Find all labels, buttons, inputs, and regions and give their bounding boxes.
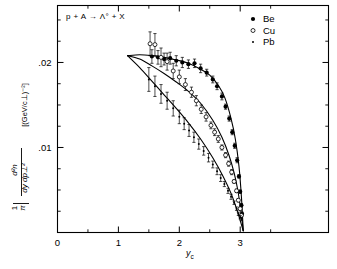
legend-label-Pb: Pb <box>263 36 275 47</box>
data-point-Pb <box>166 100 168 102</box>
x-axis-title-sub: c <box>191 253 194 260</box>
y-tick-label: .02 <box>38 57 51 68</box>
data-point-Cu <box>165 60 169 64</box>
data-point-Cu <box>199 107 203 111</box>
data-point-Pb <box>148 78 150 80</box>
y-tick-label: .01 <box>38 142 51 153</box>
legend-label-Be: Be <box>263 13 275 24</box>
data-point-Cu <box>204 115 208 119</box>
data-point-Pb <box>178 116 180 118</box>
data-point-Be <box>233 144 237 148</box>
data-point-Pb <box>237 213 239 215</box>
legend-label-Cu: Cu <box>263 25 275 36</box>
data-point-Be <box>205 71 209 75</box>
reaction-label: p + A → Λ° + X <box>66 12 125 21</box>
data-point-Be <box>220 94 224 98</box>
data-point-Cu <box>148 42 152 46</box>
data-point-Pb <box>212 163 214 165</box>
data-point-Cu <box>209 123 213 127</box>
data-point-Pb <box>223 183 225 185</box>
data-point-Cu <box>224 153 228 157</box>
y-axis-numerator: d²n <box>10 164 19 176</box>
data-point-Cu <box>183 83 187 87</box>
data-point-Pb <box>188 129 190 131</box>
data-point-Pb <box>208 157 210 159</box>
data-point-Be <box>150 54 154 58</box>
series-Pb <box>147 68 243 221</box>
data-point-Be <box>215 84 219 88</box>
x-tick-label: 1 <box>116 237 121 248</box>
data-point-Cu <box>177 75 181 79</box>
data-point-Pb <box>160 93 162 95</box>
data-point-Cu <box>159 55 163 59</box>
y-axis-label-group: [(GeV/c⊥)⁻²]1πd²ndy dp⊥² <box>10 83 29 210</box>
data-point-Pb <box>198 143 200 145</box>
data-point-Pb <box>216 170 218 172</box>
legend-marker-Pb <box>252 41 254 43</box>
data-point-Cu <box>213 130 217 134</box>
data-point-Pb <box>220 177 222 179</box>
data-point-Pb <box>230 196 232 198</box>
data-point-Be <box>199 66 203 70</box>
data-point-Be <box>235 158 239 162</box>
x-tick-label: 2 <box>177 237 182 248</box>
data-point-Cu <box>153 43 157 47</box>
y-axis-units: [(GeV/c⊥)⁻²] <box>20 83 29 127</box>
data-point-Be <box>227 116 231 120</box>
data-point-Pb <box>227 190 229 192</box>
data-point-Cu <box>220 145 224 149</box>
y-axis-prefactor-denominator: π <box>18 205 27 211</box>
data-point-Pb <box>240 218 242 220</box>
data-point-Cu <box>194 99 198 103</box>
plot-canvas: 0123.01.02BeCuPb[(GeV/c⊥)⁻²]1πd²ndy dp⊥² <box>0 0 337 269</box>
data-point-Pb <box>236 208 238 210</box>
data-point-Cu <box>230 170 234 174</box>
data-point-Be <box>192 61 196 65</box>
data-point-Pb <box>154 85 156 87</box>
data-point-Be <box>168 56 172 60</box>
data-point-Be <box>174 59 178 63</box>
data-point-Cu <box>238 207 242 211</box>
data-point-Pb <box>172 107 174 109</box>
x-axis-title: yc <box>186 248 194 260</box>
data-point-Pb <box>233 202 235 204</box>
data-point-Pb <box>183 123 185 125</box>
data-point-Cu <box>216 137 220 141</box>
data-point-Be <box>223 105 227 109</box>
data-point-Be <box>211 77 215 81</box>
x-tick-label: 0 <box>55 237 60 248</box>
data-point-Cu <box>227 162 231 166</box>
data-point-Be <box>237 174 241 178</box>
legend-marker-Be <box>251 17 255 21</box>
data-point-Cu <box>189 90 193 94</box>
data-point-Cu <box>232 179 236 183</box>
data-point-Be <box>180 60 184 64</box>
data-point-Pb <box>203 150 205 152</box>
legend-marker-Cu <box>251 29 255 33</box>
data-point-Cu <box>171 69 175 73</box>
figure-root: 0123.01.02BeCuPb[(GeV/c⊥)⁻²]1πd²ndy dp⊥²… <box>0 0 337 269</box>
data-point-Cu <box>235 189 239 193</box>
plot-frame <box>58 6 329 233</box>
data-point-Cu <box>236 198 240 202</box>
data-point-Pb <box>193 136 195 138</box>
x-tick-label: 3 <box>238 237 243 248</box>
data-point-Be <box>186 62 190 66</box>
data-point-Be <box>230 130 234 134</box>
